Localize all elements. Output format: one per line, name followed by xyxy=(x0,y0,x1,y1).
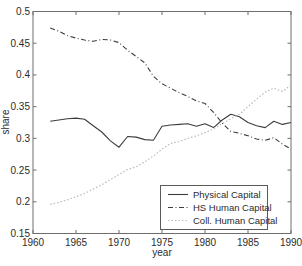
y-axis-label: share xyxy=(1,105,11,139)
dotted-line-sample-icon xyxy=(167,216,189,225)
dash-dot-line-sample-icon xyxy=(167,203,189,212)
y-tick-label-0.35: 0.35 xyxy=(11,101,31,112)
y-tick-label-0.3: 0.3 xyxy=(16,133,30,144)
x-tick-label-1985: 1985 xyxy=(237,237,260,248)
y-tick-label-0.2: 0.2 xyxy=(16,196,30,207)
y-tick-label-0.15: 0.15 xyxy=(11,228,31,239)
x-tick-label-1965: 1965 xyxy=(65,237,88,248)
y-tick-label-0.5: 0.5 xyxy=(16,6,30,17)
y-tick-label-0.25: 0.25 xyxy=(11,165,31,176)
x-axis-label: year xyxy=(120,248,204,258)
x-tick-label-1980: 1980 xyxy=(194,237,217,248)
x-tick-label-1970: 1970 xyxy=(108,237,131,248)
solid-line-sample-icon xyxy=(167,190,189,199)
legend: Physical Capital HS Human Capital Coll. … xyxy=(160,185,268,230)
legend-label-coll-human-capital: Coll. Human Capital xyxy=(193,215,277,226)
matlab-figure: 19601965197019751980198519900.150.20.250… xyxy=(0,0,302,266)
y-tick-label-0.45: 0.45 xyxy=(11,38,31,49)
y-tick-label-0.4: 0.4 xyxy=(16,69,30,80)
legend-label-hs-human-capital: HS Human Capital xyxy=(193,202,272,213)
series-line-physical-capital xyxy=(50,114,291,147)
legend-item-physical-capital: Physical Capital xyxy=(161,189,267,200)
legend-item-hs-human-capital: HS Human Capital xyxy=(161,202,267,213)
x-tick-label-1975: 1975 xyxy=(151,237,174,248)
legend-item-coll-human-capital: Coll. Human Capital xyxy=(161,215,267,226)
series-line-hs-human-capital xyxy=(50,28,291,149)
legend-label-physical-capital: Physical Capital xyxy=(193,189,261,200)
x-tick-label-1990: 1990 xyxy=(280,237,302,248)
